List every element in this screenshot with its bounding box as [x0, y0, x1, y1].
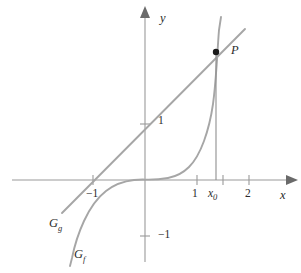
x-tick-label-1: 1: [192, 187, 198, 199]
y-tick-label-minus-1: −1: [158, 228, 170, 240]
x-axis-arrow-icon: [286, 175, 298, 185]
curve-f-label-subscript: f: [83, 254, 85, 264]
curve-g-label: Gg: [49, 216, 62, 233]
y-tick-label-1: 1: [158, 114, 164, 126]
curve-f-label-main: G: [74, 247, 83, 261]
y-axis-label: y: [160, 11, 166, 26]
x-axis-label: x: [280, 188, 286, 203]
y-axis-arrow-icon: [140, 6, 150, 18]
intersection-point-p: [213, 49, 219, 55]
x0-label: x0: [208, 187, 217, 202]
curve-g-label-main: G: [49, 216, 58, 230]
figure-canvas: [0, 0, 301, 273]
x-tick-label-2: 2: [245, 187, 251, 199]
point-p-label: P: [231, 43, 239, 58]
graph-figure: y x −1 1 2 1 −1 x0 P Gg Gf: [0, 0, 301, 273]
curve-g-g: [62, 29, 245, 213]
curve-g-label-subscript: g: [58, 223, 62, 233]
x-tick-label-minus-1: −1: [86, 187, 98, 199]
curve-f-label: Gf: [74, 247, 85, 264]
x0-label-subscript: 0: [213, 192, 217, 202]
